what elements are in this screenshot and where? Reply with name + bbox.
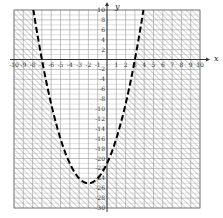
y-tick-label: 4 [101, 36, 105, 43]
y-tick-label: -4 [99, 75, 105, 82]
y-tick-label: -18 [95, 145, 105, 152]
x-tick-label: 10 [196, 61, 204, 68]
y-tick-label: -8 [99, 95, 105, 102]
y-tick-label: 10 [97, 6, 105, 13]
x-tick-label: -5 [58, 61, 64, 68]
x-tick-label: 4 [142, 61, 146, 68]
y-tick-label: -26 [95, 184, 105, 191]
y-tick-label: 8 [101, 16, 105, 23]
x-tick-label: -9 [20, 61, 26, 68]
x-tick-label: 5 [152, 61, 156, 68]
x-tick-label: 9 [189, 61, 193, 68]
y-tick-label: -2 [99, 65, 105, 72]
y-tick-label: -30 [95, 204, 105, 211]
y-tick-label: -10 [95, 105, 105, 112]
y-tick-label: -28 [95, 194, 105, 201]
y-tick-label: -6 [99, 85, 105, 92]
y-tick-label: -20 [95, 155, 105, 162]
x-tick-label: -4 [67, 61, 73, 68]
x-tick-label: 6 [161, 61, 165, 68]
y-tick-label: 6 [101, 26, 105, 33]
x-tick-label: -2 [85, 61, 91, 68]
y-axis-label: y [114, 2, 120, 11]
x-tick-label: 8 [179, 61, 183, 68]
x-tick-label: -3 [76, 61, 82, 68]
x-axis-label: x [214, 54, 219, 63]
x-tick-label: -8 [30, 61, 36, 68]
y-tick-label: -16 [95, 135, 105, 142]
x-tick-label: 7 [170, 61, 174, 68]
y-tick-label: 2 [101, 46, 105, 53]
x-tick-label: -10 [9, 61, 19, 68]
y-tick-label: -12 [95, 115, 105, 122]
x-tick-label: 2 [124, 61, 128, 68]
x-tick-label: -6 [48, 61, 54, 68]
x-tick-label: 1 [114, 61, 118, 68]
y-tick-label: -14 [95, 125, 105, 132]
graph-canvas: -10-9-8-7-6-5-4-3-2-112345678910108642-2… [0, 0, 223, 218]
